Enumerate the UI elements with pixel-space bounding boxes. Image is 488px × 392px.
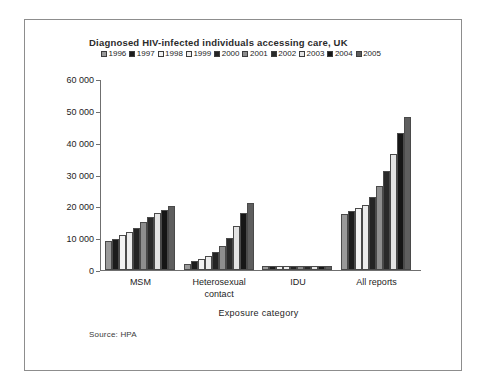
y-tick-mark (96, 176, 100, 177)
bar (191, 261, 198, 270)
legend-swatch (129, 51, 135, 57)
y-tick-label: 20 000 (48, 202, 94, 212)
bar (383, 171, 390, 270)
category-label: MSM (101, 276, 180, 300)
legend-swatch (271, 51, 277, 57)
legend-label: 2000 (222, 49, 240, 58)
bar (154, 213, 161, 270)
y-tick-mark (96, 207, 100, 208)
bar (283, 266, 290, 270)
bar (376, 186, 383, 270)
category-labels: MSMHeterosexual contactIDUAll reports (101, 276, 416, 300)
bar (318, 266, 325, 270)
legend-item: 2002 (271, 49, 296, 58)
bar (397, 133, 404, 270)
y-tick-mark (96, 112, 100, 113)
legend-label: 2005 (363, 49, 381, 58)
bar (348, 211, 355, 270)
legend-swatch (327, 51, 333, 57)
bar-groups (101, 80, 415, 270)
y-tick-mark (96, 239, 100, 240)
bar (184, 264, 191, 270)
bar (262, 266, 269, 270)
legend-label: 1997 (137, 49, 155, 58)
bar (140, 222, 147, 270)
bar (311, 266, 318, 270)
y-tick-mark (96, 80, 100, 81)
legend-swatch (158, 51, 164, 57)
bar (126, 232, 133, 270)
legend-swatch (242, 51, 248, 57)
bar (404, 117, 411, 270)
bar (233, 226, 240, 270)
legend-item: 2005 (356, 49, 381, 58)
bar (325, 266, 332, 270)
bar (247, 203, 254, 270)
bar (297, 266, 304, 270)
bar-group (337, 80, 416, 270)
category-label: IDU (259, 276, 338, 300)
legend-label: 2001 (250, 49, 268, 58)
bar (219, 246, 226, 270)
y-tick-label: 0 (48, 266, 94, 276)
y-tick-mark (96, 271, 100, 272)
chart-title: Diagnosed HIV-infected individuals acces… (89, 37, 348, 48)
bar (147, 217, 154, 270)
chart-legend: 1996199719981999200020012002200320042005 (101, 49, 384, 58)
x-axis-line (100, 270, 421, 271)
bar (304, 266, 311, 270)
bar (205, 256, 212, 270)
bar (290, 266, 297, 270)
legend-label: 2004 (335, 49, 353, 58)
bar (362, 205, 369, 270)
y-tick-label: 50 000 (48, 107, 94, 117)
bar (240, 213, 247, 270)
legend-item: 2000 (214, 49, 239, 58)
legend-item: 1999 (186, 49, 211, 58)
legend-swatch (214, 51, 220, 57)
legend-item: 1997 (129, 49, 154, 58)
legend-item: 1996 (101, 49, 126, 58)
legend-label: 2002 (278, 49, 296, 58)
bar (369, 197, 376, 270)
category-label: Heterosexual contact (180, 276, 259, 300)
bar (355, 208, 362, 270)
y-tick-label: 10 000 (48, 234, 94, 244)
bar-group (258, 80, 337, 270)
bar (119, 235, 126, 270)
legend-swatch (356, 51, 362, 57)
legend-item: 1998 (158, 49, 183, 58)
y-tick-label: 40 000 (48, 139, 94, 149)
x-axis-title: Exposure category (101, 308, 416, 318)
bar (161, 210, 168, 270)
legend-item: 2004 (327, 49, 352, 58)
bar (226, 238, 233, 270)
source-note: Source: HPA (89, 330, 137, 339)
legend-swatch (299, 51, 305, 57)
legend-label: 1998 (165, 49, 183, 58)
legend-swatch (101, 51, 107, 57)
bar (212, 252, 219, 270)
bar (112, 239, 119, 270)
legend-label: 1996 (109, 49, 127, 58)
plot-area: 010 00020 00030 00040 00050 00060 000 (100, 80, 415, 271)
legend-item: 2003 (299, 49, 324, 58)
bar (105, 241, 112, 270)
legend-item: 2001 (242, 49, 267, 58)
y-tick-label: 30 000 (48, 171, 94, 181)
category-label: All reports (337, 276, 416, 300)
bar-group (180, 80, 259, 270)
legend-swatch (186, 51, 192, 57)
legend-label: 1999 (193, 49, 211, 58)
bar (390, 154, 397, 270)
y-tick-mark (96, 144, 100, 145)
bar (341, 214, 348, 270)
y-tick-label: 60 000 (48, 75, 94, 85)
bar (269, 266, 276, 270)
bar (276, 266, 283, 270)
bar (168, 206, 175, 270)
legend-label: 2003 (307, 49, 325, 58)
bar (198, 259, 205, 270)
bar-group (101, 80, 180, 270)
bar (133, 228, 140, 270)
